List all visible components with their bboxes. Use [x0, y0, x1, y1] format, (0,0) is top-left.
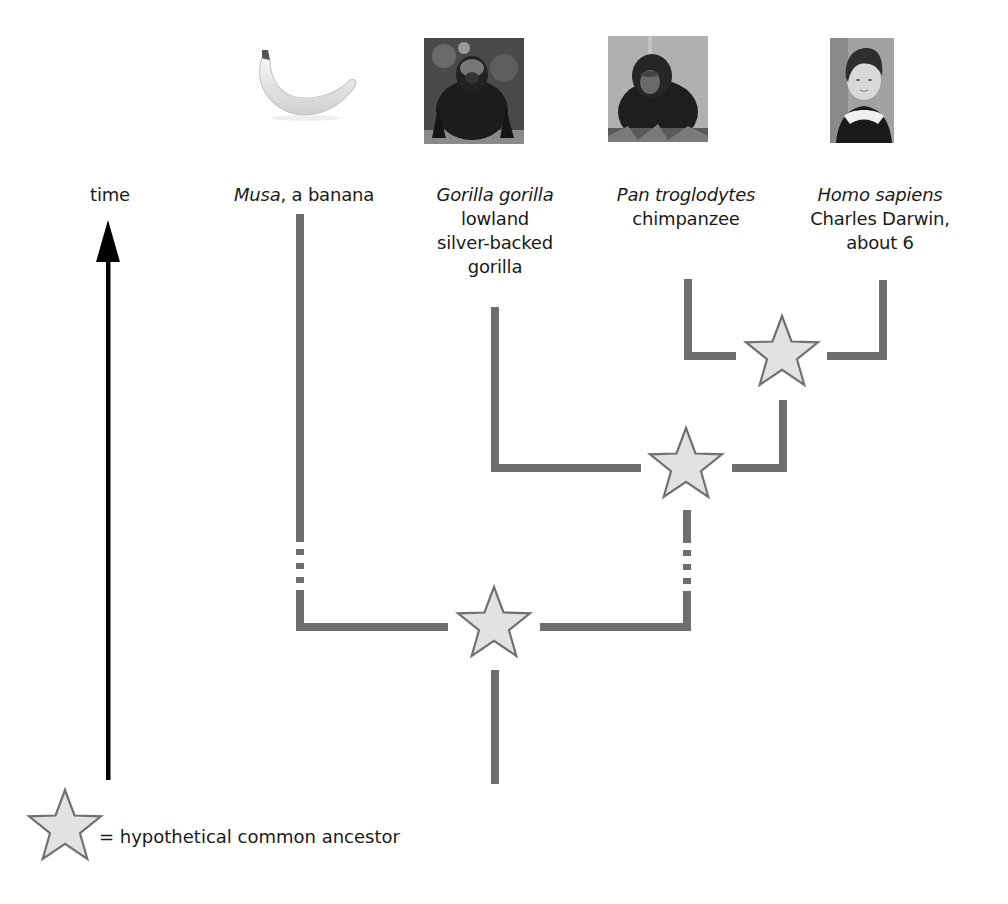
time-arrow-icon [96, 220, 120, 780]
great-ape-ancestor-branch [540, 510, 691, 631]
legend-text: = hypothetical common ancestor [99, 825, 400, 849]
human-chimp-ancestor-star-icon [746, 316, 818, 385]
phylogenetic-tree [0, 0, 1008, 904]
tree-branches [296, 214, 887, 784]
gorilla-branch [491, 307, 641, 472]
human-chimp-ancestor-branch [732, 400, 787, 472]
banana-branch [296, 214, 448, 631]
banana-ape-ancestor-star-icon [458, 587, 530, 656]
human-branch [827, 280, 887, 360]
root-branch [491, 670, 499, 784]
legend-star-icon [29, 790, 101, 859]
great-ape-ancestor-star-icon [650, 428, 722, 497]
chimpanzee-branch [684, 279, 736, 360]
